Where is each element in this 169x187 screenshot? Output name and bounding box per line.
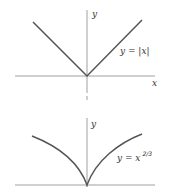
- bottom-y-axis-label: y: [90, 119, 97, 129]
- abs-curve-label: y = |x|: [119, 46, 150, 57]
- figure: y x y = |x| y y = x2/3: [0, 0, 169, 187]
- power-curve-label: y = x2/3: [116, 150, 152, 163]
- top-y-axis-label: y: [91, 9, 98, 19]
- power-curve-label-base: y = x: [116, 153, 140, 163]
- bottom-plot: y y = x2/3: [15, 118, 155, 187]
- top-x-axis-label: x: [152, 78, 157, 88]
- top-plot: y x y = |x|: [15, 9, 157, 93]
- power-curve-label-exponent: 2/3: [142, 150, 152, 157]
